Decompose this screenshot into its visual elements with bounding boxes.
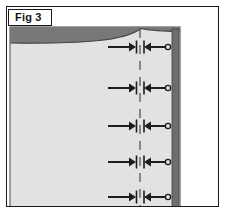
fastener-end-circle bbox=[165, 44, 170, 49]
diagram-svg bbox=[7, 7, 218, 206]
figure-label-text: Fig 3 bbox=[9, 12, 42, 23]
figure-label-box: Fig 3 bbox=[8, 9, 52, 26]
diagram-stage bbox=[7, 7, 218, 206]
fastener-end-circle bbox=[165, 194, 170, 199]
right-edge-strip bbox=[172, 29, 179, 206]
fastener-end-circle bbox=[165, 159, 170, 164]
figure-root: Fig 3 bbox=[0, 0, 226, 211]
fastener-end-circle bbox=[165, 85, 170, 90]
panel-body bbox=[10, 27, 180, 206]
fastener-end-circle bbox=[165, 123, 170, 128]
